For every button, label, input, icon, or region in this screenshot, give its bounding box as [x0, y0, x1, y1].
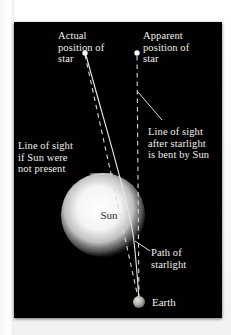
label-line-of-sight-if-sun-were-not-present: Line of sight if Sun were not present: [18, 140, 104, 175]
label-path-of-starlight: Path of starlight: [151, 247, 213, 270]
label-apparent-position-of-star: Apparent position of star: [143, 30, 221, 65]
label-sun: Sun: [88, 209, 130, 221]
leader-line-bent: [138, 92, 162, 120]
label-earth: Earth: [152, 296, 176, 308]
earth-body: [133, 296, 145, 308]
diagram-canvas: Actual position of star Apparent positio…: [14, 22, 222, 318]
label-actual-position-of-star: Actual position of star: [58, 30, 132, 65]
label-line-of-sight-after-starlight-is-bent-by-sun: Line of sight after starlight is bent by…: [148, 126, 222, 161]
diagram-panel: Actual position of star Apparent positio…: [14, 22, 222, 318]
leader-line-path: [135, 241, 150, 251]
figure-mount-left-shade: [0, 0, 14, 335]
starlight-bending-figure: Actual position of star Apparent positio…: [0, 0, 231, 335]
apparent-star-point: [134, 50, 139, 55]
